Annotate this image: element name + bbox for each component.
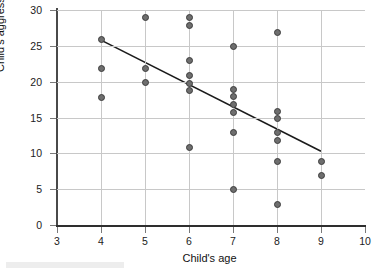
gridline-horizontal xyxy=(57,10,365,11)
y-axis-tick-label: 20 xyxy=(0,77,42,88)
y-axis-tick-label: 5 xyxy=(0,184,42,195)
x-axis-tick-label: 4 xyxy=(89,236,113,247)
data-point xyxy=(274,201,281,208)
x-axis-tick-label: 7 xyxy=(221,236,245,247)
data-point xyxy=(230,93,237,100)
data-point xyxy=(98,65,105,72)
y-axis-tick-label: 10 xyxy=(0,148,42,159)
data-point xyxy=(230,186,237,193)
gridline-horizontal xyxy=(57,46,365,47)
data-point xyxy=(186,22,193,29)
data-point xyxy=(186,87,193,94)
data-point xyxy=(98,94,105,101)
data-point xyxy=(230,129,237,136)
gridline-vertical xyxy=(145,10,146,225)
data-point xyxy=(186,144,193,151)
x-axis-tick xyxy=(57,227,58,233)
data-point xyxy=(230,101,237,108)
gridline-vertical xyxy=(189,10,190,225)
x-axis-tick-label: 3 xyxy=(45,236,69,247)
x-axis-tick-label: 9 xyxy=(309,236,333,247)
gridline-horizontal xyxy=(57,189,365,190)
x-axis-tick xyxy=(189,227,190,233)
data-point xyxy=(142,65,149,72)
x-axis-tick xyxy=(321,227,322,233)
x-axis-tick xyxy=(277,227,278,233)
gridline-horizontal xyxy=(57,118,365,119)
data-point xyxy=(274,137,281,144)
data-point xyxy=(274,29,281,36)
gridline-vertical xyxy=(321,10,322,225)
x-axis-tick xyxy=(365,227,366,233)
y-axis-tick xyxy=(50,82,56,83)
data-point xyxy=(274,129,281,136)
y-axis-tick-label: 25 xyxy=(0,41,42,52)
data-point xyxy=(142,14,149,21)
data-point xyxy=(274,158,281,165)
y-axis-tick xyxy=(50,10,56,11)
y-axis-tick xyxy=(50,118,56,119)
y-axis-tick-label: 30 xyxy=(0,5,42,16)
data-point xyxy=(186,14,193,21)
data-point xyxy=(230,109,237,116)
y-axis-tick-label: 0 xyxy=(0,220,42,231)
x-axis-tick-label: 8 xyxy=(265,236,289,247)
y-axis-tick-label: 15 xyxy=(0,113,42,124)
y-axis-tick xyxy=(50,46,56,47)
y-axis-tick xyxy=(50,189,56,190)
data-point xyxy=(230,86,237,93)
x-axis-tick xyxy=(101,227,102,233)
x-axis-tick xyxy=(145,227,146,233)
x-axis-tick-label: 5 xyxy=(133,236,157,247)
x-axis-title-text: Child's age xyxy=(182,252,236,264)
x-axis-tick xyxy=(233,227,234,233)
x-axis-tick-label: 6 xyxy=(177,236,201,247)
y-axis-tick xyxy=(50,225,56,226)
page-artifact xyxy=(6,262,124,268)
scatter-plot-figure: Child's aggression score Child's age 051… xyxy=(0,0,385,269)
data-point xyxy=(186,57,193,64)
plot-area xyxy=(57,10,365,225)
data-point xyxy=(274,108,281,115)
data-point xyxy=(318,158,325,165)
y-axis-tick xyxy=(50,153,56,154)
data-point xyxy=(274,115,281,122)
data-point xyxy=(186,72,193,79)
data-point xyxy=(142,79,149,86)
data-point xyxy=(230,43,237,50)
x-axis-tick-label: 10 xyxy=(353,236,377,247)
x-axis-line xyxy=(56,225,366,227)
data-point xyxy=(318,172,325,179)
data-point xyxy=(98,36,105,43)
gridline-horizontal xyxy=(57,82,365,83)
gridline-horizontal xyxy=(57,153,365,154)
